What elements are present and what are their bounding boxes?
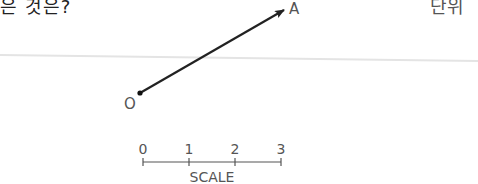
faint-separator-line <box>0 55 478 61</box>
scale-tick-3: 3 <box>277 141 286 157</box>
scale-tick-2: 2 <box>231 141 240 157</box>
vector-oa-arrow <box>140 10 284 93</box>
scale-tick-0: 0 <box>139 141 148 157</box>
origin-label: O <box>124 95 136 113</box>
vector-diagram: O A 0 1 2 3 SCALE <box>0 0 478 184</box>
tip-label: A <box>289 0 300 18</box>
scale-bar <box>143 158 281 166</box>
origin-point <box>137 90 142 95</box>
scale-tick-1: 1 <box>185 141 194 157</box>
scale-label: SCALE <box>190 169 235 184</box>
